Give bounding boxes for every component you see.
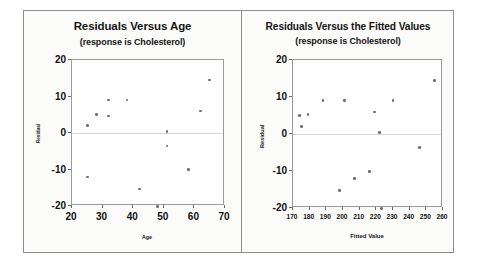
data-point [86, 124, 89, 127]
y-axis-tick-mark [68, 59, 71, 60]
data-point [199, 110, 202, 113]
y-axis-title: Residual [36, 124, 41, 143]
data-point [86, 176, 89, 179]
data-point [378, 131, 381, 134]
data-point [95, 113, 98, 116]
x-axis-tick-label: 210 [353, 213, 364, 220]
y-axis-tick-label: 10 [55, 90, 66, 101]
y-axis-tick-label: 20 [276, 54, 287, 65]
x-axis-tick-mark [193, 205, 194, 208]
data-point [166, 145, 169, 148]
data-point [300, 125, 303, 128]
y-axis-tick-label: 20 [55, 54, 66, 65]
zero-reference-line [72, 133, 223, 134]
x-axis-tick-mark [359, 207, 360, 210]
chart-title: Residuals Versus the Fitted Values [242, 21, 454, 32]
data-point [156, 205, 159, 208]
x-axis-tick-label: 190 [320, 213, 331, 220]
x-axis-tick-label: 20 [65, 211, 76, 222]
x-axis-tick-label: 230 [386, 213, 397, 220]
x-axis-tick-mark [71, 205, 72, 208]
x-axis-tick-mark [392, 207, 393, 210]
data-point [187, 168, 190, 171]
plot-area [292, 59, 442, 207]
x-axis-title: Fitted Value [350, 233, 384, 239]
chart-title: Residuals Versus Age [24, 20, 241, 32]
x-axis-tick-mark [375, 207, 376, 210]
y-axis-tick-label: 10 [276, 91, 287, 102]
data-point [368, 170, 371, 173]
chart-panel-residuals-versus-age: Residuals Versus Age (response is Choles… [24, 11, 241, 252]
x-axis-tick-mark [132, 205, 133, 208]
x-axis-tick-mark [163, 205, 164, 208]
data-point [107, 115, 110, 118]
y-axis-tick-label: 0 [60, 127, 66, 138]
x-axis-tick-label: 240 [403, 213, 414, 220]
data-point [343, 99, 346, 102]
data-point [166, 130, 169, 133]
data-point [208, 79, 211, 82]
chart-subtitle: (response is Cholesterol) [242, 36, 454, 46]
x-axis-tick-label: 200 [336, 213, 347, 220]
x-axis-tick-mark [325, 207, 326, 210]
data-point [322, 99, 325, 102]
x-axis-tick-label: 220 [370, 213, 381, 220]
y-axis-tick-label: -10 [52, 163, 66, 174]
x-axis-tick-label: 40 [127, 211, 138, 222]
y-axis-tick-mark [68, 132, 71, 133]
y-axis-title: Residual [259, 125, 265, 148]
data-point [353, 177, 356, 180]
data-point [107, 99, 110, 102]
y-axis-tick-label: -20 [273, 202, 287, 213]
x-axis-tick-label: 180 [303, 213, 314, 220]
x-axis-title: Age [142, 234, 152, 240]
y-axis-tick-mark [289, 170, 292, 171]
y-axis-tick-mark [68, 169, 71, 170]
x-axis-tick-label: 250 [420, 213, 431, 220]
y-axis-tick-label: 0 [281, 128, 287, 139]
plot-area [71, 59, 224, 205]
data-point [380, 207, 383, 210]
y-axis-tick-mark [68, 96, 71, 97]
x-axis-tick-mark [102, 205, 103, 208]
x-axis-tick-mark [409, 207, 410, 210]
data-point [392, 99, 395, 102]
chart-subtitle: (response is Cholesterol) [24, 37, 241, 47]
x-axis-tick-mark [292, 207, 293, 210]
data-point [338, 189, 341, 192]
data-point [138, 188, 141, 191]
x-axis-tick-label: 260 [436, 213, 447, 220]
y-axis-tick-mark [289, 133, 292, 134]
x-axis-tick-mark [309, 207, 310, 210]
x-axis-tick-mark [425, 207, 426, 210]
x-axis-tick-label: 50 [157, 211, 168, 222]
x-axis-tick-mark [224, 205, 225, 208]
x-axis-tick-label: 70 [218, 211, 229, 222]
y-axis-tick-mark [289, 96, 292, 97]
y-axis-tick-label: -10 [273, 165, 287, 176]
zero-reference-line [293, 134, 441, 135]
y-axis-tick-label: -20 [52, 200, 66, 211]
x-axis-tick-label: 170 [286, 213, 297, 220]
data-point [433, 79, 436, 82]
data-point [373, 111, 376, 114]
data-point [298, 114, 301, 117]
data-point [418, 146, 421, 149]
x-axis-tick-label: 30 [96, 211, 107, 222]
data-point [126, 99, 129, 102]
x-axis-tick-mark [342, 207, 343, 210]
x-axis-tick-label: 60 [188, 211, 199, 222]
data-point [307, 113, 310, 116]
x-axis-tick-mark [442, 207, 443, 210]
y-axis-tick-mark [289, 59, 292, 60]
figure-frame: Residuals Versus Age (response is Choles… [23, 10, 454, 253]
chart-panel-residuals-versus-fitted-values: Residuals Versus the Fitted Values (resp… [242, 11, 454, 252]
